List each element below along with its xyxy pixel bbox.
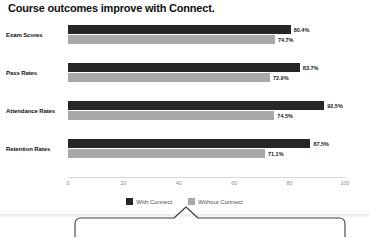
legend-label: Without Connect [198, 199, 242, 205]
bar-with-connect [68, 63, 300, 72]
category-label: Pass Rates [6, 70, 37, 76]
bar-with-connect [68, 25, 291, 34]
chart-title: Course outcomes improve with Connect. [8, 2, 215, 14]
x-tick-label: 0 [66, 180, 69, 186]
bar-value-label: 87.5% [313, 141, 329, 147]
legend-swatch-icon [126, 198, 133, 205]
legend-label: With Connect [136, 199, 172, 205]
x-tick-label: 80 [287, 180, 293, 186]
category-label: Attendance Rates [6, 108, 55, 114]
category-label: Retention Rates [6, 146, 50, 152]
bar-with-connect [68, 101, 324, 110]
bar-without-connect [68, 111, 274, 120]
x-tick-label: 60 [231, 180, 237, 186]
bar-value-label: 72.9% [273, 75, 289, 81]
legend-swatch-icon [188, 198, 195, 205]
bar-value-label: 74.7% [278, 37, 294, 43]
chart-legend: With ConnectWithout Connect [0, 198, 369, 205]
bar-with-connect [68, 139, 310, 148]
x-tick-label: 20 [120, 180, 126, 186]
bar-value-label: 71.1% [268, 151, 284, 157]
x-axis-line [68, 177, 346, 178]
legend-item[interactable]: Without Connect [188, 198, 242, 205]
bar-without-connect [68, 35, 275, 44]
bar-value-label: 83.7% [303, 65, 319, 71]
bar-without-connect [68, 73, 270, 82]
x-tick-label: 100 [340, 180, 349, 186]
bar-value-label: 80.4% [294, 27, 310, 33]
callout-bubble [0, 206, 369, 238]
bar-value-label: 74.5% [277, 113, 293, 119]
chart-plot-area: Exam Scores80.4%74.7%Pass Rates83.7%72.9… [0, 22, 369, 177]
bar-without-connect [68, 149, 265, 158]
bar-value-label: 92.5% [327, 103, 343, 109]
x-tick-label: 40 [176, 180, 182, 186]
legend-item[interactable]: With Connect [126, 198, 172, 205]
category-label: Exam Scores [6, 32, 43, 38]
